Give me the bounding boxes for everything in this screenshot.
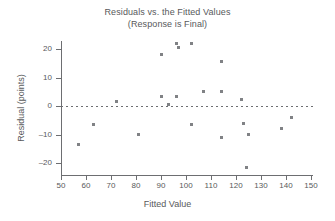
x-axis-tick [261, 175, 262, 180]
data-point [220, 90, 223, 93]
x-axis-tick [311, 175, 312, 180]
x-axis-tick [136, 175, 137, 180]
y-axis-tick-label: 0 [26, 101, 52, 110]
x-axis-tick-label: 70 [98, 181, 124, 190]
x-axis-tick-label: 60 [73, 181, 99, 190]
data-point [115, 100, 118, 103]
data-point [220, 60, 223, 63]
y-axis-tick [56, 106, 61, 107]
x-axis-tick-label: 130 [248, 181, 274, 190]
x-axis-tick-label: 90 [148, 181, 174, 190]
data-point [175, 42, 178, 45]
y-axis-tick [56, 78, 61, 79]
data-point [240, 98, 243, 101]
data-point [177, 46, 180, 49]
x-axis-tick [161, 175, 162, 180]
data-point [190, 42, 193, 45]
x-axis-tick [186, 175, 187, 180]
y-axis-tick-label: 20 [26, 44, 52, 53]
data-point [190, 123, 193, 126]
x-axis-tick [111, 175, 112, 180]
y-axis-tick-label: –10 [26, 130, 52, 139]
data-point [175, 95, 178, 98]
data-point [280, 127, 283, 130]
x-axis-tick [86, 175, 87, 180]
x-axis-tick [286, 175, 287, 180]
x-axis-tick [236, 175, 237, 180]
zero-reference-line [61, 106, 313, 107]
x-axis-title: Fitted Value [0, 199, 335, 209]
data-point [92, 123, 95, 126]
y-axis-tick [56, 135, 61, 136]
x-axis-tick-label: 150 [298, 181, 324, 190]
x-axis-line [61, 175, 313, 176]
data-point [242, 122, 245, 125]
residual-plot-figure: Residuals vs. the Fitted Values (Respons… [0, 0, 335, 221]
y-axis-title: Residual (points) [16, 48, 26, 168]
data-point [137, 133, 140, 136]
y-axis-tick-label: 10 [26, 73, 52, 82]
x-axis-tick-label: 100 [173, 181, 199, 190]
data-point [167, 103, 170, 106]
data-point [245, 166, 248, 169]
y-axis-tick-label: –20 [26, 158, 52, 167]
x-axis-tick-label: 120 [223, 181, 249, 190]
data-point [247, 133, 250, 136]
data-point [77, 143, 80, 146]
x-axis-tick [211, 175, 212, 180]
y-axis-tick [56, 49, 61, 50]
data-point [202, 90, 205, 93]
x-axis-tick-label: 140 [273, 181, 299, 190]
plot-area: 20100–10–205060708090100110120130140150 [0, 0, 335, 221]
x-axis-tick-label: 50 [48, 181, 74, 190]
data-point [160, 95, 163, 98]
y-axis-line [61, 41, 62, 175]
y-axis-tick [56, 163, 61, 164]
data-point [290, 116, 293, 119]
x-axis-tick-label: 110 [198, 181, 224, 190]
data-point [160, 53, 163, 56]
x-axis-tick [61, 175, 62, 180]
data-point [220, 136, 223, 139]
x-axis-tick-label: 80 [123, 181, 149, 190]
